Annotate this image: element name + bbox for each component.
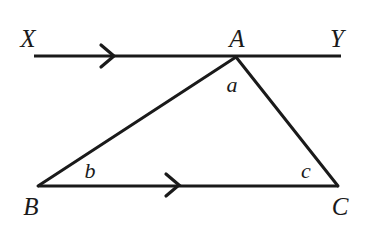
label-angle-a: a	[227, 74, 238, 96]
side-ab	[38, 57, 236, 186]
side-ac	[236, 57, 338, 186]
label-angle-c: c	[301, 160, 311, 182]
geometry-canvas	[0, 0, 376, 228]
label-vertex-b: B	[23, 194, 38, 219]
label-angle-b: b	[85, 160, 96, 182]
label-point-y: Y	[330, 26, 344, 51]
label-vertex-c: C	[332, 194, 349, 219]
label-point-x: X	[20, 26, 35, 51]
geometry-diagram: X Y A B C a b c	[0, 0, 376, 228]
label-vertex-a: A	[229, 26, 244, 51]
